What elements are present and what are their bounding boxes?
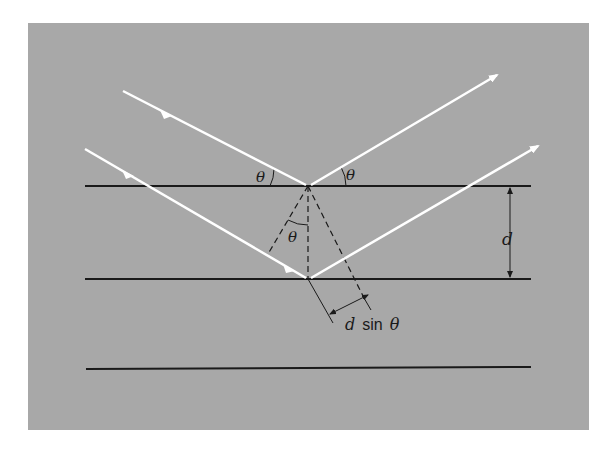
label-theta-incident: θ [256,168,265,186]
ray-1-reflected [311,75,497,185]
angle-arc-incident [270,169,274,186]
angle-arc-inner [288,220,308,225]
crystal-plane-3 [86,367,531,369]
label-path-difference: d sin θ [345,315,400,334]
ray-1-incident [123,91,306,185]
extension-line-right [364,298,371,310]
dashed-perpendicular-right [308,186,364,298]
path-difference-arrow [330,295,368,314]
label-theta-inner: θ [288,228,297,246]
extension-line-left [308,279,333,323]
bragg-diagram: θ θ θ d d sin θ [0,0,608,452]
label-theta-reflected: θ [346,166,355,184]
label-spacing-d: d [502,229,513,249]
